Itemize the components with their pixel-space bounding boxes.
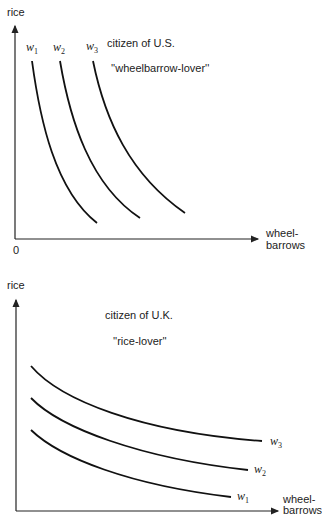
top-title: citizen of U.S. bbox=[107, 37, 175, 49]
top-label-w2: w2 bbox=[53, 40, 65, 56]
bottom-curve-w2 bbox=[31, 398, 248, 470]
bottom-label-w3: w3 bbox=[270, 434, 282, 450]
bottom-title: citizen of U.K. bbox=[105, 309, 173, 321]
bottom-curve-w3 bbox=[31, 366, 262, 441]
bottom-x-axis-label: wheel-barrows bbox=[283, 494, 322, 516]
top-label-w1: w1 bbox=[26, 40, 38, 56]
bottom-label-w1: w1 bbox=[237, 489, 249, 505]
top-y-axis-label: rice bbox=[7, 6, 25, 18]
top-x-axis-label: wheel-barrows bbox=[266, 227, 305, 251]
top-subtitle: ''wheelbarrow-lover'' bbox=[111, 62, 209, 74]
bottom-label-w2: w2 bbox=[254, 462, 266, 478]
top-label-w3: w3 bbox=[86, 39, 98, 55]
top-curve-w3 bbox=[93, 61, 185, 213]
bottom-y-axis-label: rice bbox=[7, 279, 25, 291]
bottom-subtitle: ''rice-lover'' bbox=[113, 335, 167, 347]
top-origin-label: 0 bbox=[13, 244, 19, 256]
